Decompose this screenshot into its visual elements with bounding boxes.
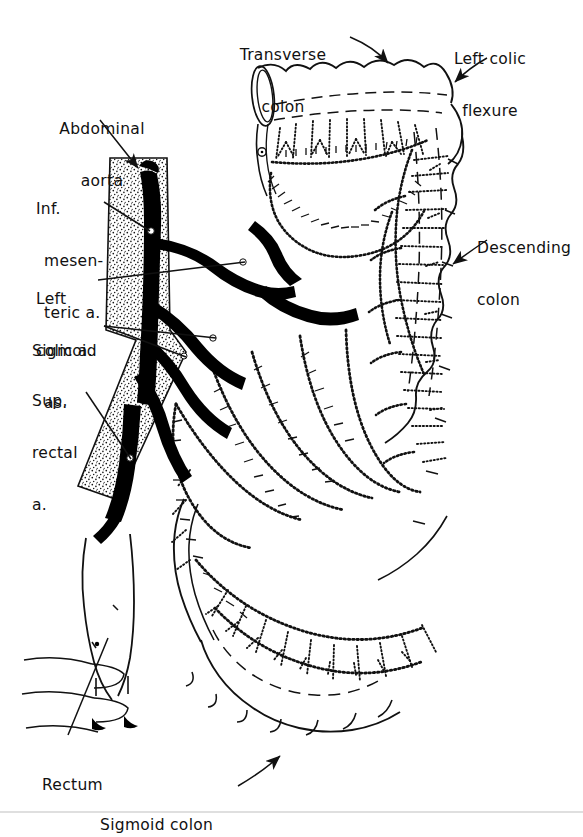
sigmoid-colon-outer-wall [201,640,400,732]
transverse-colon-mesenteric-border [257,124,268,196]
sigmoid-mesocolon-arcades [173,330,422,673]
arcade-hatching [172,137,421,618]
descending-sigmoid-inner-wall [378,516,447,580]
label-left-colic-flexure: Left colic flexure [435,16,545,138]
marginal-artery-arcades [270,140,428,463]
leader-rectum [68,638,108,735]
leader-sigmoid-colon [238,756,280,786]
label-transverse-colon: Transverse colon [233,12,333,134]
sigmoid-colon-proximal-wall-inner [189,504,214,640]
descending-colon-lateral-wall [385,136,463,443]
sigmoid-colon-proximal-wall [174,499,201,642]
label-superior-rectal-artery: Sup. rectal a. [32,358,78,532]
transverse-colon-mesenteric-border-inner [266,124,276,194]
left-colic-descending-branch [258,286,359,326]
label-sigmoid-colon: Sigmoid colon [100,782,213,837]
leader-transverse-colon [350,37,388,63]
label-descending-colon: Descending colon [477,205,571,327]
left-colic-ascending-branch [248,221,302,286]
rectum-outline [82,538,112,700]
label-rectum: Rectum [42,742,103,811]
rectum-and-sacrum [22,534,138,732]
sacrum-outline [22,658,128,732]
